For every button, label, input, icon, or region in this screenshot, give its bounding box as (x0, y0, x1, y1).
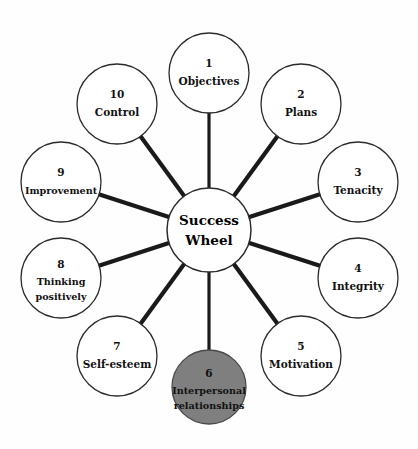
node-2-label: Plans (285, 106, 317, 118)
node-5-number: 5 (297, 340, 304, 352)
node-10-circle[interactable] (77, 64, 157, 144)
node-8[interactable]: 8 Thinking positively (21, 238, 101, 318)
node-4-circle[interactable] (318, 238, 398, 318)
node-7[interactable]: 7 Self-esteem (77, 316, 157, 396)
node-5-circle[interactable] (261, 316, 341, 396)
node-7-circle[interactable] (77, 316, 157, 396)
node-3-label: Tenacity (333, 184, 383, 196)
node-1-number: 1 (205, 57, 212, 69)
node-10-number: 10 (110, 88, 125, 100)
node-8-label-line2: positively (35, 291, 87, 302)
success-wheel-diagram: 1 Objectives 2 Plans 3 Tenacity 4 Integr… (0, 0, 418, 449)
node-2-circle[interactable] (261, 64, 341, 144)
node-9[interactable]: 9 Improvement (21, 142, 101, 222)
node-6-label-line1: Interpersonal (172, 385, 246, 396)
node-2-number: 2 (297, 88, 304, 100)
node-5-label: Motivation (269, 358, 333, 370)
node-6-label-line2: relationships (174, 400, 245, 411)
center-hub[interactable]: Success Wheel (167, 188, 251, 272)
center-hub-label-line2: Wheel (184, 232, 232, 248)
node-3-circle[interactable] (318, 142, 398, 222)
center-hub-circle[interactable] (167, 188, 251, 272)
node-6-number: 6 (205, 367, 212, 379)
node-7-label: Self-esteem (83, 358, 152, 370)
node-9-circle[interactable] (21, 142, 101, 222)
node-4-label: Integrity (332, 280, 385, 292)
node-8-label-line1: Thinking (37, 276, 86, 287)
node-2[interactable]: 2 Plans (261, 64, 341, 144)
node-3[interactable]: 3 Tenacity (318, 142, 398, 222)
node-7-number: 7 (113, 340, 120, 352)
node-5[interactable]: 5 Motivation (261, 316, 341, 396)
node-10-label: Control (95, 106, 139, 118)
node-6[interactable]: 6 Interpersonal relationships (172, 350, 246, 424)
node-1[interactable]: 1 Objectives (169, 33, 249, 113)
node-1-circle[interactable] (169, 33, 249, 113)
center-hub-label-line1: Success (179, 212, 239, 228)
node-10[interactable]: 10 Control (77, 64, 157, 144)
node-8-number: 8 (57, 258, 64, 270)
node-4[interactable]: 4 Integrity (318, 238, 398, 318)
node-1-label: Objectives (179, 75, 240, 87)
node-3-number: 3 (354, 166, 361, 178)
node-9-number: 9 (57, 166, 64, 178)
node-9-label: Improvement (25, 185, 98, 196)
node-4-number: 4 (354, 262, 361, 274)
